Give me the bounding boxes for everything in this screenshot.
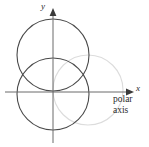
y-axis-arrowhead <box>50 8 57 16</box>
x-axis-label: x <box>136 84 140 93</box>
polar-axis-annotation-line1: polar <box>113 94 133 105</box>
curves-group <box>17 19 123 130</box>
axes-group <box>5 8 134 143</box>
y-axis-label: y <box>41 2 45 11</box>
polar-axis-figure: x y polar axis <box>0 0 149 147</box>
polar-axis-annotation-line2: axis <box>113 105 128 116</box>
figure-canvas <box>0 0 149 147</box>
